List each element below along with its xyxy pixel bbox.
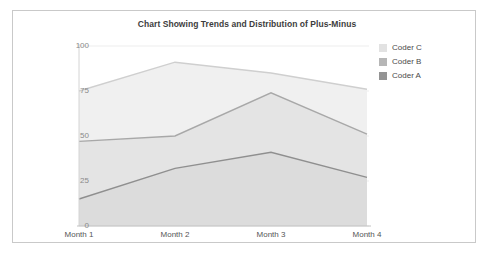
y-tick-label: 50 [80,132,89,140]
y-tick-label: 0 [85,222,89,230]
caption-strip [14,249,434,259]
y-tick-label: 75 [80,87,89,95]
y-tick-label: 25 [80,177,89,185]
y-axis-tick-labels: 1007550250 [63,11,89,244]
legend-item[interactable]: Coder C [379,41,471,54]
legend-swatch-icon [379,58,387,66]
legend-label: Coder C [392,43,422,52]
x-tick-label: Month 4 [346,230,388,240]
x-tick-label: Month 2 [154,230,196,240]
screenshot-root: Chart Showing Trends and Distribution of… [0,0,488,259]
legend-item[interactable]: Coder B [379,55,471,68]
x-tick-label: Month 3 [250,230,292,240]
chart-frame: Chart Showing Trends and Distribution of… [12,10,476,243]
legend-swatch-icon [379,44,387,52]
legend-item[interactable]: Coder A [379,69,471,82]
x-tick-label: Month 1 [58,230,100,240]
legend-label: Coder B [392,57,421,66]
legend-label: Coder A [392,71,421,80]
x-axis-tick-labels: Month 1Month 2Month 3Month 4 [13,230,477,246]
legend-swatch-icon [379,72,387,80]
y-tick-label: 100 [76,42,89,50]
chart-legend: Coder CCoder BCoder A [379,41,471,83]
